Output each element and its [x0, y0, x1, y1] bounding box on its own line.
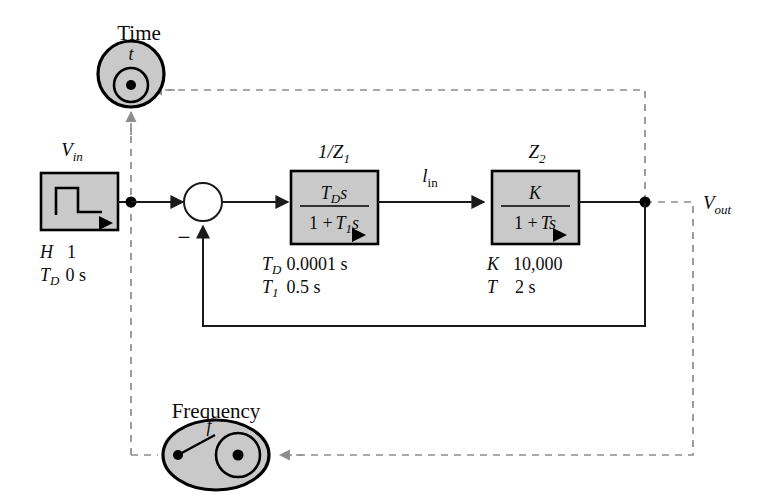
- time-probe[interactable]: t: [98, 41, 164, 107]
- block2-denominator-lead: 1 +: [514, 213, 538, 233]
- control-system-block-diagram: Time t Vin H1 TD0 s − 1/Z1 TDs: [0, 0, 765, 504]
- block2-param-1: T2 s: [487, 277, 536, 297]
- block2-numerator: K: [528, 183, 542, 203]
- summing-junction-circle: [184, 183, 222, 221]
- block1-label-main: 1/Z: [318, 141, 344, 162]
- block2-label: Z2: [528, 141, 546, 166]
- block2-param-0-value: 10,000: [513, 254, 563, 274]
- intermediate-signal-label-sub: in: [428, 175, 439, 190]
- source-param-1-sub: D: [49, 273, 60, 288]
- source-param-0-name: H: [39, 242, 54, 262]
- block2-body: [492, 171, 579, 244]
- block1-denominator-lead: 1 +: [309, 213, 333, 233]
- block1-label-sub: 1: [343, 151, 350, 166]
- block2-label-sub: 2: [539, 151, 546, 166]
- block2-numerator-main: K: [528, 183, 542, 203]
- block1-param-1-sub: 1: [272, 285, 279, 300]
- output-signal-label: Vout: [703, 192, 732, 217]
- block1-param-0: TD0.0001 s: [262, 254, 347, 277]
- block1-numerator-sub: D: [330, 191, 341, 206]
- block1-param-1-value: 0.5 s: [287, 277, 321, 297]
- source-block-label: Vin: [61, 139, 83, 164]
- source-param-0: H1: [39, 242, 76, 262]
- block1-transfer-function[interactable]: TDs 1 +T1s: [291, 171, 378, 244]
- frequency-probe[interactable]: f: [163, 416, 269, 490]
- output-signal-label-sub: out: [715, 202, 732, 217]
- frequency-probe-pivot-dot: [173, 450, 183, 460]
- frequency-probe-center-dot: [233, 450, 244, 461]
- intermediate-signal-label: lin: [422, 165, 438, 190]
- source-block-label-sub: in: [73, 149, 83, 164]
- block1-param-0-sub: D: [271, 262, 282, 277]
- source-param-1-value: 0 s: [65, 265, 86, 285]
- time-probe-center-dot: [126, 80, 136, 90]
- block2-param-0: K10,000: [486, 254, 563, 274]
- block2-transfer-function[interactable]: K 1 +Ts: [492, 171, 579, 244]
- block1-body: [291, 171, 378, 244]
- block1-param-1: T10.5 s: [262, 277, 321, 300]
- block2-label-main: Z: [528, 141, 539, 162]
- block2-param-1-name: T: [487, 277, 499, 297]
- block1-label: 1/Z1: [318, 141, 350, 166]
- block-diagram-canvas: Time t Vin H1 TD0 s − 1/Z1 TDs: [0, 0, 765, 504]
- feedback-minus-sign: −: [178, 225, 191, 250]
- source-block[interactable]: [41, 173, 118, 230]
- block2-param-0-name: K: [486, 254, 500, 274]
- summing-junction[interactable]: [184, 183, 222, 221]
- block1-numerator-tail: s: [340, 183, 347, 203]
- source-param-0-value: 1: [67, 242, 76, 262]
- block2-param-1-value: 2 s: [515, 277, 536, 297]
- block2-denominator: 1 +Ts: [514, 213, 556, 233]
- block1-param-0-value: 0.0001 s: [286, 254, 347, 274]
- source-param-1: TD0 s: [40, 265, 86, 288]
